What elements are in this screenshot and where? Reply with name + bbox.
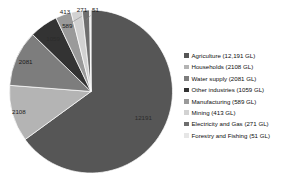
chart-legend: Agriculture (12,191 GL)Households (2108 … (184, 50, 286, 141)
legend-swatch-icon (184, 65, 189, 70)
pie-slices-group (9, 10, 172, 173)
legend-swatch-icon (184, 122, 189, 127)
pie-data-label: 589 (62, 22, 73, 29)
legend-swatch-icon (184, 76, 189, 81)
pie-data-label: 2081 (19, 58, 33, 65)
pie-data-label: 413 (60, 8, 71, 15)
legend-item-label: Households (2108 GL) (192, 61, 254, 72)
legend-item-label: Agriculture (12,191 GL) (192, 50, 256, 61)
pie-data-label: 271 (77, 6, 88, 13)
pie-plot-area: 1219121082081105958941327151 (0, 0, 182, 194)
legend-item-label: Mining (413 GL) (192, 107, 236, 118)
legend-item[interactable]: Households (2108 GL) (184, 61, 286, 72)
legend-swatch-icon (184, 88, 189, 93)
pie-data-label: 2108 (12, 108, 26, 115)
legend-item-label: Electricity and Gas (271 GL) (192, 118, 269, 129)
legend-swatch-icon (184, 53, 189, 58)
pie-data-label: 51 (92, 6, 99, 13)
legend-item[interactable]: Other industries (1059 GL) (184, 84, 286, 95)
legend-item[interactable]: Manufacturing (589 GL) (184, 96, 286, 107)
pie-data-label: 1059 (46, 35, 60, 42)
legend-item-label: Water supply (2081 GL) (192, 73, 257, 84)
legend-item-label: Other industries (1059 GL) (192, 84, 265, 95)
legend-item[interactable]: Electricity and Gas (271 GL) (184, 118, 286, 129)
legend-swatch-icon (184, 99, 189, 104)
legend-item[interactable]: Water supply (2081 GL) (184, 73, 286, 84)
legend-item[interactable]: Forestry and Fishing (51 GL) (184, 130, 286, 141)
pie-data-label: 12191 (135, 114, 153, 121)
legend-swatch-icon (184, 133, 189, 138)
pie-svg: 1219121082081105958941327151 (0, 0, 182, 194)
legend-swatch-icon (184, 110, 189, 115)
pie-chart-figure: 1219121082081105958941327151 Agriculture… (0, 0, 286, 194)
legend-item[interactable]: Agriculture (12,191 GL) (184, 50, 286, 61)
legend-item[interactable]: Mining (413 GL) (184, 107, 286, 118)
legend-item-label: Forestry and Fishing (51 GL) (192, 130, 270, 141)
legend-item-label: Manufacturing (589 GL) (192, 96, 257, 107)
